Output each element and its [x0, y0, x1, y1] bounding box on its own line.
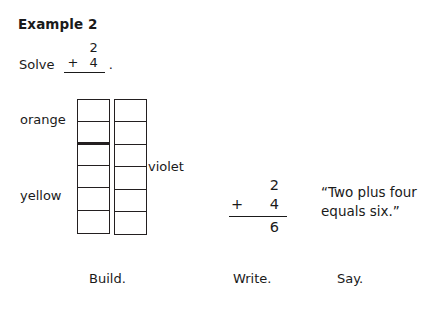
cube — [114, 144, 147, 168]
cube — [77, 165, 110, 189]
tower-label-violet: violet — [148, 160, 184, 173]
spoken-sentence: “Two plus four equals six.” — [321, 183, 441, 221]
left-cube-tower — [77, 99, 110, 234]
cube — [77, 210, 110, 234]
cube — [77, 142, 110, 166]
write-operator: + — [231, 195, 243, 214]
cube — [114, 99, 147, 123]
solve-top-addend: 2 — [64, 40, 105, 55]
solve-addend-row: +4 — [64, 55, 105, 72]
say-line-2: equals six.” — [321, 202, 441, 221]
solve-bottom-addend: 4 — [89, 55, 97, 70]
solve-label: Solve — [19, 58, 55, 73]
sum-rule-line — [229, 216, 287, 217]
write-bottom-addend: 4 — [270, 195, 279, 214]
cube — [114, 189, 147, 213]
solve-operator: + — [68, 55, 79, 70]
cube — [114, 166, 147, 190]
solve-expression: 2 +4 — [64, 40, 105, 73]
write-top-addend: 2 — [229, 176, 287, 195]
write-sum-total: 6 — [229, 218, 287, 237]
solve-period: . — [109, 58, 113, 73]
cube — [114, 121, 147, 145]
right-cube-tower — [114, 99, 147, 235]
solve-prompt: Solve 2 +4 . — [19, 40, 113, 73]
tower-label-yellow: yellow — [20, 189, 62, 202]
caption-say: Say. — [337, 272, 363, 285]
tower-label-orange: orange — [20, 113, 66, 126]
write-addend-row: + 4 — [229, 195, 287, 214]
cube — [114, 211, 147, 235]
cube — [77, 187, 110, 211]
say-line-1: “Two plus four — [321, 183, 441, 202]
page-title: Example 2 — [18, 16, 98, 32]
caption-write: Write. — [233, 272, 271, 285]
cube — [77, 99, 110, 123]
written-addition: 2 + 4 6 — [229, 176, 287, 237]
caption-build: Build. — [89, 272, 126, 285]
